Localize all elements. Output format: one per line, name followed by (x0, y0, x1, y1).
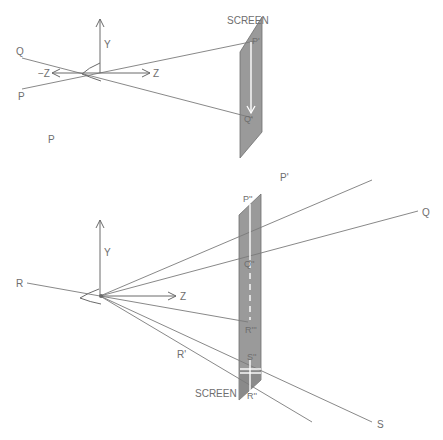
top-z-label: Z (153, 68, 159, 79)
projection-diagram: SCREEN Y Z −Z Q P P' Q' P Y Z (0, 0, 443, 440)
image-p-label: P'' (243, 194, 253, 204)
bottom-eye-lens-icon (80, 289, 101, 304)
top-image-q-label: Q' (244, 114, 253, 124)
image-q-label: Q'' (244, 259, 255, 269)
ray-r-source (27, 283, 100, 296)
bottom-y-label: Y (104, 247, 111, 258)
ray-p (22, 41, 255, 89)
stray-p-label: P (48, 134, 55, 145)
top-y-label: Y (104, 39, 111, 50)
ray-s (100, 296, 372, 422)
top-neg-z-label: −Z (38, 68, 50, 79)
top-point-q-label: Q (16, 46, 24, 57)
bottom-point-q-label: Q (422, 207, 430, 218)
bottom-point-s-label: S (377, 419, 384, 430)
bottom-point-r-label: R (16, 278, 23, 289)
ray-q (22, 58, 253, 118)
bottom-diagram: Y Z R P' Q S R' P'' Q'' R''' S'' R'' SCR… (16, 172, 430, 430)
ray-p-prime (100, 180, 372, 296)
image-r-label: R''' (245, 325, 257, 335)
eye-lens-icon (82, 63, 101, 81)
top-image-p-label: P' (252, 36, 260, 46)
image-r2-label: R'' (247, 391, 257, 401)
bottom-point-p-prime-label: P' (280, 172, 289, 183)
top-screen-label: SCREEN (227, 15, 269, 26)
image-s-label: S'' (247, 352, 257, 362)
bottom-z-label: Z (180, 291, 186, 302)
eye-pupil-icon (99, 294, 103, 298)
bottom-point-r-prime-label: R' (177, 349, 186, 360)
top-point-p-label: P (18, 91, 25, 102)
bottom-screen-label: SCREEN (195, 388, 237, 399)
